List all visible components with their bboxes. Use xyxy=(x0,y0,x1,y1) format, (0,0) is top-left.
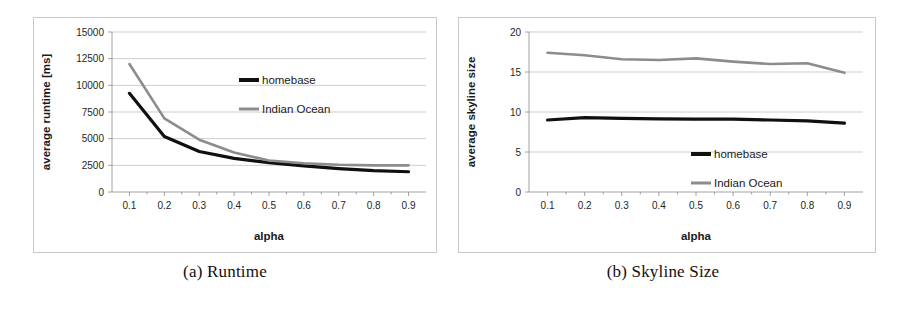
y-tick-label: 5000 xyxy=(82,133,105,144)
series-line-homebase xyxy=(548,118,845,124)
x-tick-label: 0.9 xyxy=(402,200,416,211)
figure-two-panel: 0.10.20.30.40.50.60.70.80.90250050007500… xyxy=(0,0,898,313)
caption-skyline-size: (b) Skyline Size xyxy=(446,262,880,282)
legend-label-homebase: homebase xyxy=(262,74,316,86)
x-tick-label: 0.2 xyxy=(578,200,592,211)
chart-frame-skyline-size: 0.10.20.30.40.50.60.70.80.905101520alpha… xyxy=(458,17,876,253)
y-tick-label: 15000 xyxy=(76,27,104,38)
x-tick-label: 0.8 xyxy=(367,200,381,211)
x-tick-label: 0.9 xyxy=(837,200,851,211)
y-tick-label: 10 xyxy=(510,107,522,118)
legend-label-indian-ocean: Indian Ocean xyxy=(714,177,782,189)
y-tick-label: 0 xyxy=(515,187,521,198)
y-axis-title: average skyline size xyxy=(465,57,477,168)
legend-label-indian-ocean: Indian Ocean xyxy=(262,103,330,115)
y-tick-label: 15 xyxy=(510,67,522,78)
y-axis-title: average runtime [ms] xyxy=(40,54,52,170)
y-tick-label: 7500 xyxy=(82,107,105,118)
x-tick-label: 0.5 xyxy=(689,200,703,211)
y-tick-label: 2500 xyxy=(82,160,105,171)
skyline-size-line-chart: 0.10.20.30.40.50.60.70.80.905101520alpha… xyxy=(459,18,877,254)
runtime-line-chart: 0.10.20.30.40.50.60.70.80.90250050007500… xyxy=(34,18,438,254)
caption-runtime: (a) Runtime xyxy=(10,262,440,282)
x-tick-label: 0.1 xyxy=(122,200,136,211)
x-tick-label: 0.4 xyxy=(652,200,666,211)
x-tick-label: 0.8 xyxy=(800,200,814,211)
x-tick-label: 0.3 xyxy=(615,200,629,211)
y-tick-label: 0 xyxy=(98,187,104,198)
y-tick-label: 20 xyxy=(510,27,522,38)
series-line-indian-ocean xyxy=(548,53,845,73)
x-axis-title: alpha xyxy=(254,230,285,242)
x-tick-label: 0.6 xyxy=(726,200,740,211)
x-tick-label: 0.5 xyxy=(262,200,276,211)
x-tick-label: 0.4 xyxy=(227,200,241,211)
x-axis-title: alpha xyxy=(681,230,712,242)
chart-frame-runtime: 0.10.20.30.40.50.60.70.80.90250050007500… xyxy=(33,17,437,253)
x-tick-label: 0.6 xyxy=(297,200,311,211)
x-tick-label: 0.7 xyxy=(332,200,346,211)
x-tick-label: 0.7 xyxy=(763,200,777,211)
x-tick-label: 0.1 xyxy=(541,200,555,211)
y-tick-label: 5 xyxy=(515,147,521,158)
y-tick-label: 12500 xyxy=(76,53,104,64)
x-tick-label: 0.2 xyxy=(157,200,171,211)
legend-label-homebase: homebase xyxy=(714,148,768,160)
x-tick-label: 0.3 xyxy=(192,200,206,211)
y-tick-label: 10000 xyxy=(76,80,104,91)
